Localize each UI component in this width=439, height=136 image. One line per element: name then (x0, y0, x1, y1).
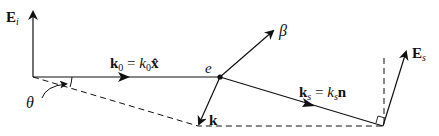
angle-theta-label: θ (26, 94, 34, 111)
incident-field-label: Ei (6, 9, 19, 27)
scattered-wavevector-label: ks = ksn (299, 84, 347, 102)
scattering-geometry-diagram: Ei k0 = k0x̂ θ e β k ks = ksn Es (0, 0, 439, 136)
electron-label: e (205, 60, 212, 76)
scattered-field-arrow (383, 52, 406, 126)
incident-wavevector-label: k0 = k0x̂ (110, 55, 159, 73)
scattered-field-label: Es (412, 45, 426, 63)
angle-arc (70, 77, 72, 87)
velocity-arrow (220, 31, 273, 77)
velocity-beta-label: β (278, 22, 287, 40)
k-vector-label: k (209, 112, 218, 128)
incident-wavevector-line (33, 72, 220, 82)
